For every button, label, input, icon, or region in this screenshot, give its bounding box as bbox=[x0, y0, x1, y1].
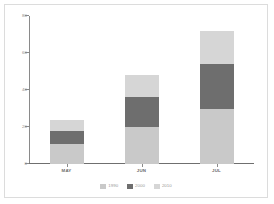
y-axis-tick-label: 80 bbox=[22, 13, 27, 17]
x-axis-category-label: JUN bbox=[137, 169, 146, 173]
y-axis-tick-label: 0 bbox=[25, 161, 27, 165]
y-axis-tick-label: 40 bbox=[22, 87, 27, 91]
x-axis-category-label: MAY bbox=[62, 169, 72, 173]
bar-segment-2010[interactable] bbox=[50, 120, 84, 131]
bar-segment-2000[interactable] bbox=[125, 97, 159, 127]
legend-label: 2010 bbox=[162, 184, 172, 188]
legend-swatch-icon bbox=[127, 184, 133, 189]
x-axis-tick-mark bbox=[142, 164, 143, 167]
bar-segment-1990[interactable] bbox=[50, 144, 84, 164]
legend-item-2010[interactable]: 2010 bbox=[154, 184, 172, 189]
legend-label: 2000 bbox=[135, 184, 145, 188]
bar-segment-1990[interactable] bbox=[200, 109, 234, 165]
stacked-bar[interactable] bbox=[200, 31, 234, 164]
chart-legend: 199020002010 bbox=[5, 184, 267, 189]
legend-swatch-icon bbox=[154, 184, 160, 189]
bar-segment-2000[interactable] bbox=[50, 131, 84, 144]
chart-frame: 020406080 MAYJUNJUL 199020002010 bbox=[4, 4, 268, 198]
x-axis-tick-mark bbox=[217, 164, 218, 167]
legend-item-1990[interactable]: 1990 bbox=[100, 184, 118, 189]
bars-layer: MAYJUNJUL bbox=[29, 16, 254, 164]
x-axis-tick-mark bbox=[67, 164, 68, 167]
x-axis-category-label: JUL bbox=[212, 169, 221, 173]
stacked-bar[interactable] bbox=[125, 75, 159, 164]
bar-segment-2010[interactable] bbox=[200, 31, 234, 64]
bar-segment-1990[interactable] bbox=[125, 127, 159, 164]
plot-area: 020406080 MAYJUNJUL bbox=[29, 16, 254, 164]
y-axis-tick-label: 60 bbox=[22, 50, 27, 54]
legend-swatch-icon bbox=[100, 184, 106, 189]
stacked-bar[interactable] bbox=[50, 120, 84, 164]
bar-segment-2000[interactable] bbox=[200, 64, 234, 108]
legend-item-2000[interactable]: 2000 bbox=[127, 184, 145, 189]
bar-segment-2010[interactable] bbox=[125, 75, 159, 97]
y-axis-tick-label: 20 bbox=[22, 124, 27, 128]
legend-label: 1990 bbox=[108, 184, 118, 188]
